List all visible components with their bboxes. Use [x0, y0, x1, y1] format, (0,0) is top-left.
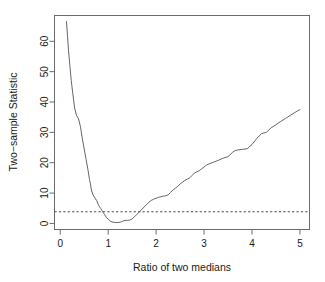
- x-axis-tick-label: 2: [153, 238, 159, 249]
- x-axis-tick-label: 0: [57, 238, 63, 249]
- y-axis-tick-label: 0: [39, 220, 50, 226]
- y-axis-title: Two−sample Statistic: [7, 73, 19, 172]
- y-axis-tick-label: 30: [39, 126, 50, 138]
- x-axis-tick-label: 3: [201, 238, 207, 249]
- chart-figure: 012345 0102030405060 Ratio of two median…: [0, 0, 325, 282]
- x-axis-tick-label: 5: [297, 238, 303, 249]
- y-axis-tick-label: 10: [39, 187, 50, 199]
- y-axis-tick-label: 50: [39, 66, 50, 78]
- x-axis-title: Ratio of two medians: [133, 261, 231, 273]
- x-axis-tick-label: 1: [105, 238, 111, 249]
- y-axis-tick-label: 20: [39, 157, 50, 169]
- plot-svg: 012345 0102030405060 Ratio of two median…: [0, 0, 325, 282]
- y-axis-tick-label: 40: [39, 96, 50, 108]
- y-axis-tick-label: 60: [39, 35, 50, 47]
- x-axis-tick-label: 4: [249, 238, 255, 249]
